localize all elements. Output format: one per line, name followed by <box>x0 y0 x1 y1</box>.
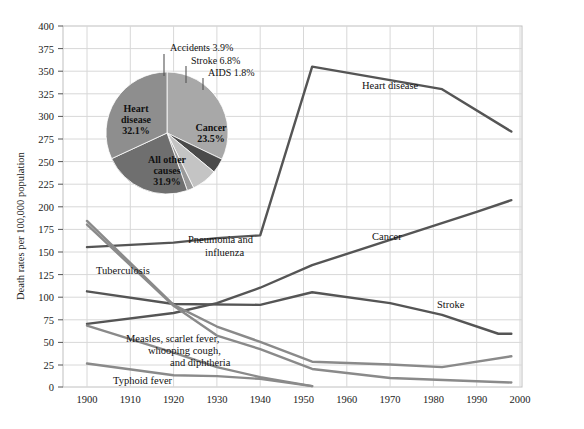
y-tick-175: 175 <box>38 224 54 235</box>
y-tick-labels: 400 375 350 325 300 275 250 225 200 175 … <box>38 21 54 393</box>
pie-label-heart-1: Heart <box>124 103 150 114</box>
pie-label-other-3: 31.9% <box>153 176 181 187</box>
series-label-measles-2: whooping cough, <box>148 345 221 356</box>
y-tick-25: 25 <box>44 360 55 371</box>
x-tick-1960: 1960 <box>336 394 357 405</box>
y-tick-150: 150 <box>38 247 54 258</box>
y-tick-300: 300 <box>38 111 54 122</box>
pie-label-heart-2: disease <box>121 114 152 125</box>
pie-label-other-1: All other <box>148 154 187 165</box>
pie-callout-aids: AIDS 1.8% <box>208 67 255 78</box>
y-tick-275: 275 <box>38 134 54 145</box>
pie-label-heart-3: 32.1% <box>122 125 150 136</box>
mortality-trends-figure: 400 375 350 325 300 275 250 225 200 175 … <box>0 0 584 429</box>
y-tick-325: 325 <box>38 89 54 100</box>
series-label-measles-3: and diphtheria <box>170 357 231 368</box>
pie-label-cancer-1: Cancer <box>195 122 227 133</box>
pie-label-other-2: causes <box>153 165 180 176</box>
y-tick-400: 400 <box>38 21 54 32</box>
x-tick-1920: 1920 <box>163 394 184 405</box>
x-tick-1900: 1900 <box>77 394 98 405</box>
x-tick-1980: 1980 <box>423 394 444 405</box>
x-tick-1950: 1950 <box>293 394 314 405</box>
y-tick-375: 375 <box>38 44 54 55</box>
y-tick-75: 75 <box>44 315 55 326</box>
x-tick-1970: 1970 <box>380 394 401 405</box>
series-label-pneumonia-1: Pneumonia and <box>188 234 254 245</box>
y-tick-125: 125 <box>38 270 54 281</box>
series-label-cancer: Cancer <box>372 231 402 242</box>
x-tick-1940: 1940 <box>250 394 271 405</box>
y-tick-0: 0 <box>49 382 54 393</box>
chart-svg: 400 375 350 325 300 275 250 225 200 175 … <box>0 0 584 429</box>
pie-callout-stroke: Stroke 6.8% <box>191 55 240 66</box>
series-label-pneumonia-2: influenza <box>205 247 244 258</box>
series-label-measles-1: Measles, scarlet fever, <box>126 333 219 344</box>
x-tick-1910: 1910 <box>120 394 141 405</box>
y-tick-100: 100 <box>38 292 54 303</box>
y-tick-250: 250 <box>38 157 54 168</box>
series-label-tuberculosis: Tuberculosis <box>96 265 150 276</box>
x-tick-1990: 1990 <box>466 394 487 405</box>
y-tick-350: 350 <box>38 66 54 77</box>
y-tick-50: 50 <box>44 337 55 348</box>
x-tick-labels: 1900 1910 1920 1930 1940 1950 1960 1970 … <box>77 394 531 405</box>
y-axis-title: Death rates per 100,000 population <box>15 151 26 300</box>
series-label-heart-disease: Heart disease <box>362 80 419 91</box>
pie-label-cancer-2: 23.5% <box>197 133 225 144</box>
y-axis-ticks <box>58 26 63 387</box>
y-tick-200: 200 <box>38 202 54 213</box>
x-tick-2000: 2000 <box>510 394 531 405</box>
y-tick-225: 225 <box>38 179 54 190</box>
x-tick-1930: 1930 <box>206 394 227 405</box>
pie-callout-accidents: Accidents 3.9% <box>170 42 233 53</box>
series-label-stroke: Stroke <box>437 299 465 310</box>
series-label-typhoid: Typhoid fever <box>113 375 173 386</box>
